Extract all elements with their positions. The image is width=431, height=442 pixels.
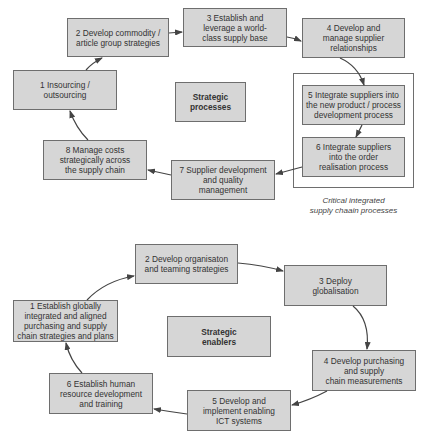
enabler-box-3: 3 Deploy globalisation [284,265,387,306]
process-box-4: 4 Develop and manage supplier relationsh… [302,18,405,58]
strategic-processes-center: Strategic processes [175,82,246,122]
strategic-enablers-center: Strategic enablers [167,316,271,357]
arrow-p1-p2 [86,58,102,70]
enabler-box-6-label: 6 Establish human resource development a… [60,379,142,409]
strategic-enablers-label: Strategic enablers [201,327,237,347]
enabler-box-5-label: 5 Develop and implement enabling ICT sys… [203,396,275,426]
process-box-5-label: 5 Integrate suppliers into the new produ… [306,90,401,120]
process-box-7: 7 Supplier development and quality manag… [171,160,275,200]
process-box-7-label: 7 Supplier development and quality manag… [179,165,266,195]
enabler-box-4-label: 4 Develop purchasing and supply chain me… [324,356,404,386]
process-box-1: 1 Insourcing / outsourcing [13,70,117,110]
arrow-p7-p8 [148,170,171,175]
process-box-3-label: 3 Establish and leverage a world- class … [202,13,268,43]
frame-caption: Critical integrated supply chaain proces… [293,196,414,216]
arrow-e4-e5 [292,391,327,405]
process-box-6: 6 Integrate suppliers into the order rea… [302,137,405,177]
enabler-box-2-label: 2 Develop organisaton and teaming strate… [145,254,229,274]
arrow-e5-e6 [154,409,187,414]
enabler-box-4: 4 Develop purchasing and supply chain me… [312,350,416,391]
arrow-e2-e3 [238,263,283,271]
arrow-p2-p3 [169,32,182,33]
process-box-2-label: 2 Develop commodity / article group stra… [76,28,160,48]
process-box-8-label: 8 Manage costs strategically across the … [60,145,131,175]
process-box-1-label: 1 Insourcing / outsourcing [40,80,90,100]
arrow-e6-e1 [66,343,82,373]
enabler-box-6: 6 Establish human resource development a… [49,373,153,414]
arrow-p8-p1 [70,111,88,140]
process-box-5: 5 Integrate suppliers into the new produ… [302,85,405,125]
process-box-8: 8 Manage costs strategically across the … [43,140,147,180]
process-box-3: 3 Establish and leverage a world- class … [183,8,287,47]
arrow-e3-e4 [353,306,367,349]
enabler-box-1-label: 1 Establish globally integrated and alig… [17,301,113,341]
enabler-box-1: 1 Establish globally integrated and alig… [13,300,118,342]
process-box-4-label: 4 Develop and manage supplier relationsh… [323,23,384,53]
arrow-e1-e2 [87,276,134,300]
process-box-6-label: 6 Integrate suppliers into the order rea… [316,142,391,172]
arrow-p3-p4 [287,37,301,41]
enabler-box-5: 5 Develop and implement enabling ICT sys… [187,390,291,431]
enabler-box-3-label: 3 Deploy globalisation [312,276,358,296]
strategic-processes-label: Strategic processes [190,92,231,112]
process-box-2: 2 Develop commodity / article group stra… [67,18,169,57]
enabler-box-2: 2 Develop organisaton and teaming strate… [135,244,238,284]
